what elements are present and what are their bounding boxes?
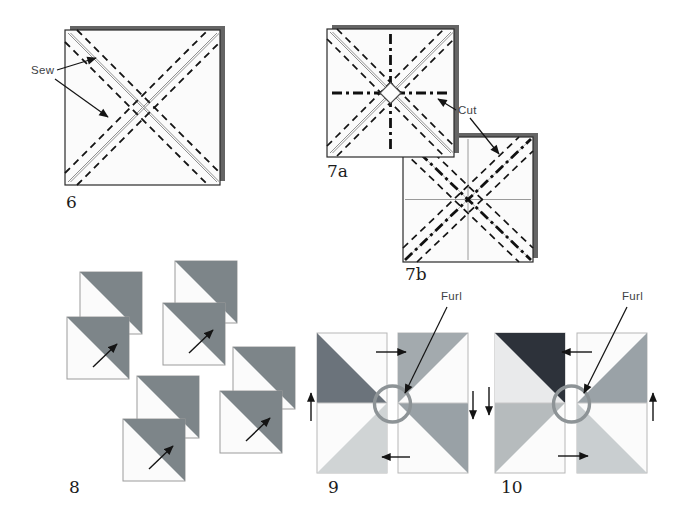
step-number-8: 8 [69, 478, 80, 496]
furl-label-10: Furl [622, 290, 643, 302]
hst-pair [220, 347, 295, 453]
step-number-7b: 7b [405, 265, 427, 283]
hst-unit-front [220, 391, 282, 453]
step8-figure [67, 261, 295, 481]
furl-label-9: Furl [441, 290, 462, 302]
step9-figure [311, 307, 473, 473]
diagram-art [0, 0, 689, 515]
pinwheel-right-half [577, 333, 647, 473]
quilt-instruction-diagram: Sew Cut Furl Furl 6 7a 7b 8 9 10 [0, 0, 689, 515]
step-number-10: 10 [501, 478, 523, 496]
step6-figure [55, 26, 225, 185]
step10-figure [489, 307, 653, 473]
sew-label: Sew [31, 64, 54, 76]
pinwheel-left-half [317, 333, 387, 473]
hst-pair [67, 272, 142, 379]
step-number-7a: 7a [327, 162, 348, 180]
pinwheel-right-half [398, 333, 468, 473]
cut-label: Cut [458, 104, 477, 116]
hst-pair [123, 376, 199, 481]
hst-unit-front [123, 419, 185, 481]
step-number-9: 9 [328, 478, 339, 496]
step7a-figure [327, 25, 459, 157]
hst-pair [163, 261, 237, 365]
hst-unit-front [163, 303, 225, 365]
hst-unit-front [67, 317, 129, 379]
step-number-6: 6 [66, 193, 77, 211]
